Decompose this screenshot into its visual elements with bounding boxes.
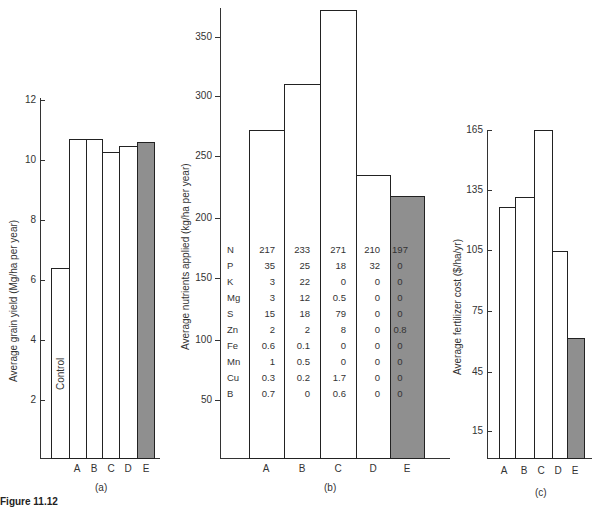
chart-b-tick bbox=[215, 278, 220, 279]
chart-b-cat-label: A bbox=[258, 463, 274, 474]
nutrient-value-b: 0.1 bbox=[282, 340, 310, 351]
nutrient-value-d: 0 bbox=[352, 292, 380, 303]
chart-c-bar-d bbox=[552, 251, 568, 459]
chart-a-cat-label: D bbox=[120, 463, 136, 474]
nutrient-value-c: 271 bbox=[318, 244, 346, 255]
chart-b-tick-label: 50 bbox=[182, 394, 212, 405]
chart-a-bar-b bbox=[86, 139, 103, 459]
nutrient-value-a: 0.6 bbox=[247, 340, 275, 351]
nutrient-label: N bbox=[227, 244, 234, 255]
nutrient-value-e: 0 bbox=[386, 356, 414, 367]
chart-b-tick bbox=[215, 37, 220, 38]
chart-c-tick bbox=[487, 431, 492, 432]
nutrient-value-e: 0 bbox=[386, 292, 414, 303]
nutrient-label: Mg bbox=[227, 292, 240, 303]
chart-b-cat-label: D bbox=[365, 463, 381, 474]
nutrient-value-c: 0 bbox=[318, 340, 346, 351]
chart-a-bar-c bbox=[102, 152, 120, 459]
nutrient-value-e: 0 bbox=[386, 260, 414, 271]
nutrient-label: Cu bbox=[227, 372, 239, 383]
nutrient-value-a: 217 bbox=[247, 244, 275, 255]
nutrient-value-a: 15 bbox=[247, 308, 275, 319]
chart-b-cat-label: E bbox=[399, 463, 415, 474]
chart-c-cat-label: B bbox=[516, 465, 532, 476]
nutrient-value-d: 0 bbox=[352, 324, 380, 335]
nutrient-value-b: 0 bbox=[282, 388, 310, 399]
chart-b-tick bbox=[215, 340, 220, 341]
chart-b-tick-label: 300 bbox=[182, 90, 212, 101]
chart-c-tick bbox=[487, 130, 492, 131]
chart-c-y-axis bbox=[487, 130, 488, 459]
nutrient-value-a: 0.3 bbox=[247, 372, 275, 383]
nutrient-value-e: 0 bbox=[386, 340, 414, 351]
chart-b-tick bbox=[215, 156, 220, 157]
nutrient-value-d: 0 bbox=[352, 340, 380, 351]
chart-c-bar-e bbox=[567, 338, 585, 459]
chart-b-cat-label: C bbox=[330, 463, 346, 474]
chart-a-tick-label: 10 bbox=[6, 154, 36, 165]
nutrient-value-e: 197 bbox=[386, 244, 414, 255]
nutrient-value-d: 210 bbox=[352, 244, 380, 255]
chart-a-tick-label: 12 bbox=[6, 94, 36, 105]
nutrient-value-e: 0 bbox=[386, 308, 414, 319]
nutrient-value-a: 35 bbox=[247, 260, 275, 271]
chart-a-cat-label: C bbox=[103, 463, 119, 474]
chart-b-cat-label: B bbox=[294, 463, 310, 474]
chart-c-bar-c bbox=[534, 130, 553, 459]
chart-c-cat-label: A bbox=[496, 465, 512, 476]
chart-a-bar-a bbox=[69, 139, 87, 459]
chart-a-cat-label: E bbox=[138, 463, 154, 474]
nutrient-value-b: 0.2 bbox=[282, 372, 310, 383]
chart-b-panel-label: (b) bbox=[324, 482, 336, 493]
nutrient-value-e: 0 bbox=[386, 372, 414, 383]
nutrient-value-b: 233 bbox=[282, 244, 310, 255]
chart-b-tick bbox=[215, 400, 220, 401]
nutrient-value-c: 0 bbox=[318, 276, 346, 287]
chart-a-y-label: Average grain yield (Mg/ha per year) bbox=[8, 220, 19, 382]
chart-a-bar-e bbox=[137, 142, 155, 459]
chart-c-tick bbox=[487, 372, 492, 373]
chart-a-cat-label: B bbox=[86, 463, 102, 474]
chart-b-tick-label: 250 bbox=[182, 150, 212, 161]
chart-a-tick bbox=[40, 160, 45, 161]
nutrient-label: K bbox=[227, 276, 233, 287]
chart-c-cat-label: C bbox=[533, 465, 549, 476]
nutrient-value-b: 0.5 bbox=[282, 356, 310, 367]
nutrient-value-a: 3 bbox=[247, 292, 275, 303]
nutrient-value-c: 0 bbox=[318, 356, 346, 367]
chart-c-tick-label: 135 bbox=[453, 184, 483, 195]
chart-c-tick bbox=[487, 250, 492, 251]
nutrient-value-d: 0 bbox=[352, 276, 380, 287]
chart-c-bar-a bbox=[499, 207, 516, 459]
chart-a-control-label: Control bbox=[55, 358, 66, 390]
chart-c-bar-b bbox=[515, 197, 535, 459]
nutrient-value-c: 18 bbox=[318, 260, 346, 271]
nutrient-value-d: 0 bbox=[352, 372, 380, 383]
nutrient-value-b: 12 bbox=[282, 292, 310, 303]
nutrient-value-b: 2 bbox=[282, 324, 310, 335]
nutrient-value-d: 32 bbox=[352, 260, 380, 271]
nutrient-label: Zn bbox=[227, 324, 238, 335]
nutrient-value-c: 1.7 bbox=[318, 372, 346, 383]
chart-b-y-label: Average nutrients applied (kg/ha per yea… bbox=[180, 163, 191, 350]
chart-a-bar-d bbox=[119, 146, 138, 459]
chart-b-bar-b bbox=[284, 84, 321, 459]
nutrient-value-d: 0 bbox=[352, 356, 380, 367]
nutrient-value-c: 79 bbox=[318, 308, 346, 319]
chart-c-tick-label: 165 bbox=[453, 124, 483, 135]
nutrient-value-a: 1 bbox=[247, 356, 275, 367]
chart-b-tick-label: 350 bbox=[182, 31, 212, 42]
chart-c-tick bbox=[487, 311, 492, 312]
chart-a-tick bbox=[40, 280, 45, 281]
chart-a-y-axis bbox=[40, 98, 41, 459]
nutrient-label: P bbox=[227, 260, 233, 271]
nutrient-value-d: 0 bbox=[352, 308, 380, 319]
nutrient-value-c: 0.5 bbox=[318, 292, 346, 303]
nutrient-value-e: 0 bbox=[386, 388, 414, 399]
chart-b-y-axis bbox=[220, 8, 221, 459]
chart-c-y-label: Average fertilizer cost ($/ha/yr) bbox=[452, 239, 463, 375]
chart-a-tick bbox=[40, 340, 45, 341]
chart-c-tick-label: 15 bbox=[453, 425, 483, 436]
nutrient-label: B bbox=[227, 388, 233, 399]
chart-c-cat-label: E bbox=[567, 465, 583, 476]
